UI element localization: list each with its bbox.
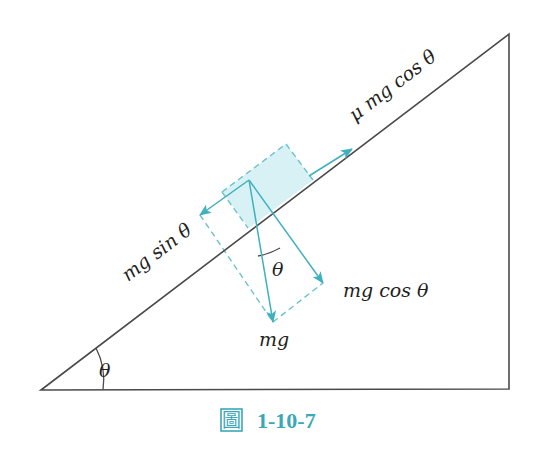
base-angle-label: θ	[99, 359, 111, 381]
between-angle-label: θ	[272, 258, 284, 280]
decomposition-dashed-left	[200, 215, 273, 322]
caption-char: 圖	[222, 409, 241, 431]
weight-label: mg	[259, 328, 289, 350]
parallel-force-label: mg sin θ	[117, 218, 196, 285]
figure-caption: 圖 1-10-7	[221, 408, 316, 433]
decomposition-dashed-bottom	[273, 283, 323, 322]
caption-number: 1-10-7	[257, 408, 316, 433]
perpendicular-force-label: mg cos θ	[343, 279, 429, 301]
inclined-plane-diagram: μ mg cos θ mg sin θ mg cos θ mg θ θ 圖 1-…	[0, 0, 539, 459]
block	[222, 144, 313, 228]
friction-label: μ mg cos θ	[344, 44, 440, 125]
friction-arrow	[309, 149, 352, 176]
